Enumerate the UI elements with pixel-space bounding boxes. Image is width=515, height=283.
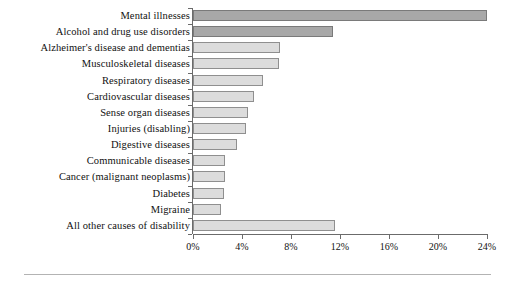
- y-axis-tick: [188, 202, 192, 203]
- y-axis-tick: [188, 56, 192, 57]
- bar: [193, 58, 279, 69]
- bar-row: Digestive diseases: [0, 137, 515, 153]
- bar-row: Alzheimer's disease and dementias: [0, 40, 515, 56]
- y-axis-tick: [188, 169, 192, 170]
- bar: [193, 75, 263, 86]
- category-label: Communicable diseases: [87, 153, 190, 169]
- x-axis-tick: [438, 235, 439, 239]
- x-axis-tick: [291, 235, 292, 239]
- x-axis-tick: [389, 235, 390, 239]
- x-axis-tick-label: 20%: [429, 241, 447, 252]
- bar: [193, 123, 246, 134]
- category-label: Alcohol and drug use disorders: [56, 24, 190, 40]
- plot-area: Mental illnessesAlcohol and drug use dis…: [0, 0, 515, 248]
- x-axis-tick-label: 16%: [380, 241, 398, 252]
- x-axis-tick-label: 24%: [478, 241, 496, 252]
- bar-row: All other causes of disability: [0, 218, 515, 234]
- category-label: Diabetes: [152, 186, 190, 202]
- y-axis-tick: [188, 8, 192, 9]
- category-label: Sense organ diseases: [100, 105, 190, 121]
- y-axis-tick: [188, 24, 192, 25]
- category-label: Cancer (malignant neoplasms): [59, 169, 190, 185]
- category-label: Respiratory diseases: [102, 73, 190, 89]
- y-axis-tick: [188, 137, 192, 138]
- footer-divider: [24, 274, 491, 275]
- y-axis-tick: [188, 89, 192, 90]
- bar-row: Respiratory diseases: [0, 73, 515, 89]
- bar-chart-figure: Mental illnessesAlcohol and drug use dis…: [0, 0, 515, 283]
- category-label: All other causes of disability: [66, 218, 190, 234]
- category-label: Digestive diseases: [111, 137, 190, 153]
- bar: [193, 220, 335, 231]
- bar-row: Mental illnesses: [0, 8, 515, 24]
- bar: [193, 107, 248, 118]
- x-axis-tick-label: 8%: [284, 241, 297, 252]
- bar: [193, 42, 280, 53]
- y-axis-tick: [188, 73, 192, 74]
- y-axis-tick: [188, 40, 192, 41]
- bar-row: Sense organ diseases: [0, 105, 515, 121]
- bar: [193, 171, 225, 182]
- category-label: Injuries (disabling): [108, 121, 190, 137]
- bar: [193, 10, 487, 21]
- x-axis-tick-label: 4%: [235, 241, 248, 252]
- category-label: Musculoskeletal diseases: [82, 56, 190, 72]
- category-label: Alzheimer's disease and dementias: [40, 40, 190, 56]
- bar-row: Musculoskeletal diseases: [0, 56, 515, 72]
- bar: [193, 204, 221, 215]
- y-axis-tick: [188, 153, 192, 154]
- y-axis-tick: [188, 121, 192, 122]
- bar-row: Cancer (malignant neoplasms): [0, 169, 515, 185]
- y-axis-tick: [188, 234, 192, 235]
- bar: [193, 26, 333, 37]
- bar: [193, 91, 254, 102]
- bar-row: Cardiovascular diseases: [0, 89, 515, 105]
- bar-row: Communicable diseases: [0, 153, 515, 169]
- x-axis-tick: [487, 235, 488, 239]
- y-axis-tick: [188, 186, 192, 187]
- bar: [193, 155, 225, 166]
- x-axis-tick: [242, 235, 243, 239]
- category-label: Migraine: [151, 202, 190, 218]
- bar: [193, 139, 237, 150]
- category-label: Cardiovascular diseases: [87, 89, 190, 105]
- bar-row: Injuries (disabling): [0, 121, 515, 137]
- x-axis-tick-label: 0%: [186, 241, 199, 252]
- bar: [193, 188, 224, 199]
- bar-row: Alcohol and drug use disorders: [0, 24, 515, 40]
- y-axis-tick: [188, 105, 192, 106]
- x-axis-tick: [340, 235, 341, 239]
- x-axis-tick-label: 12%: [331, 241, 349, 252]
- x-axis-tick: [193, 235, 194, 239]
- category-label: Mental illnesses: [120, 8, 190, 24]
- y-axis-tick: [188, 218, 192, 219]
- bar-row: Migraine: [0, 202, 515, 218]
- bar-row: Diabetes: [0, 186, 515, 202]
